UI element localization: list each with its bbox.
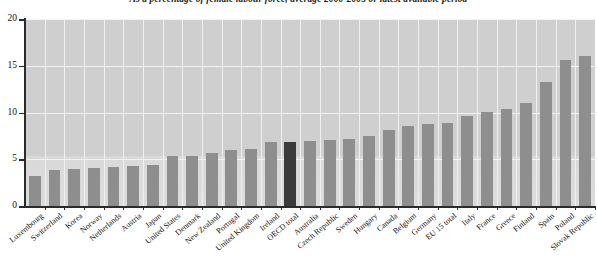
y-tick-label-0: 0 (0, 201, 17, 211)
gridline-x-10 (241, 19, 242, 206)
y-tick-mark-0 (19, 206, 25, 208)
gridline-y-15 (25, 66, 595, 67)
y-tick-label-15: 15 (0, 61, 17, 71)
gridline-x-18 (398, 19, 399, 206)
y-tick-mark-20 (19, 19, 25, 21)
y-tick-mark-5 (19, 159, 25, 161)
gridline-x-2 (84, 19, 85, 206)
bar-chart-figure: As a percentage of female labour force, … (0, 0, 597, 267)
plot-area (25, 19, 595, 206)
gridline-x-12 (281, 19, 282, 206)
bar-eu-15-total (442, 123, 454, 206)
gridline-x-13 (300, 19, 301, 206)
bar-slovak-republic (579, 56, 591, 206)
gridline-x-16 (359, 19, 360, 206)
bar-poland (560, 60, 572, 206)
gridline-x-0 (45, 19, 46, 206)
gridline-x-21 (457, 19, 458, 206)
y-tick-label-5: 5 (0, 154, 17, 164)
bar-luxembourg (29, 176, 41, 206)
gridline-x-22 (477, 19, 478, 206)
gridline-x-24 (516, 19, 517, 206)
bar-greece (501, 109, 513, 206)
gridline-x-7 (182, 19, 183, 206)
gridline-x-19 (418, 19, 419, 206)
chart-title: As a percentage of female labour force, … (0, 0, 597, 4)
gridline-x-25 (536, 19, 537, 206)
gridline-x-23 (497, 19, 498, 206)
gridline-x-26 (556, 19, 557, 206)
gridline-x-6 (163, 19, 164, 206)
gridline-x-27 (575, 19, 576, 206)
gridline-x-14 (320, 19, 321, 206)
y-tick-label-20: 20 (0, 14, 17, 24)
gridline-x-9 (222, 19, 223, 206)
gridline-x-20 (438, 19, 439, 206)
y-tick-label-10: 10 (0, 108, 17, 118)
gridline-x-3 (104, 19, 105, 206)
gridline-x-15 (339, 19, 340, 206)
gridline-y-20 (25, 19, 595, 20)
gridline-x-17 (379, 19, 380, 206)
y-tick-mark-10 (19, 113, 25, 115)
bar-belgium (402, 126, 414, 206)
bar-germany (422, 124, 434, 206)
bar-finland (520, 103, 532, 206)
bar-united-states (167, 156, 179, 206)
bar-spain (540, 82, 552, 206)
gridline-x-8 (202, 19, 203, 206)
y-tick-mark-15 (19, 66, 25, 68)
bar-italy (461, 116, 473, 206)
gridline-x-11 (261, 19, 262, 206)
gridline-x-4 (123, 19, 124, 206)
gridline-x-1 (64, 19, 65, 206)
gridline-x-5 (143, 19, 144, 206)
